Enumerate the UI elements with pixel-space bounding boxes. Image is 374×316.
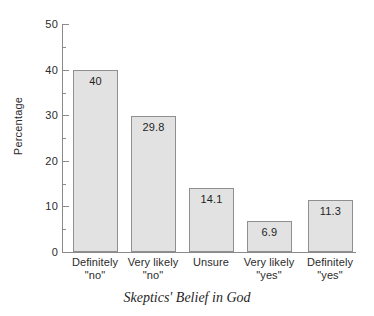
bar-value-label: 29.8 (132, 121, 175, 133)
y-tick-minor-35 (62, 93, 66, 94)
y-tick-minor-5 (62, 229, 66, 230)
bar-very-likely-no[interactable]: 29.8 (131, 116, 176, 252)
y-tick-major-0 (62, 252, 69, 253)
bar-definitely-no[interactable]: 40 (73, 70, 118, 252)
x-label-line1: Definitely (307, 256, 353, 268)
x-axis-line (62, 252, 356, 253)
chart-caption: Skeptics' Belief in God (0, 290, 374, 306)
y-tick-minor-25 (62, 138, 66, 139)
y-tick-label-10: 10 (18, 200, 58, 212)
y-tick-minor-45 (62, 47, 66, 48)
bar-value-label: 40 (74, 75, 117, 87)
bar-value-label: 14.1 (190, 193, 233, 205)
x-label-line2: "no" (110, 269, 196, 282)
y-tick-major-20 (62, 161, 69, 162)
y-tick-minor-15 (62, 184, 66, 185)
bar-unsure[interactable]: 14.1 (189, 188, 234, 252)
bar-value-label: 11.3 (309, 205, 352, 217)
bar-very-likely-yes[interactable]: 6.9 (247, 221, 292, 252)
bar-chart-plot-area: Percentage 0 10 20 30 40 50 40 29.8 14.1 (0, 0, 374, 316)
x-label-definitely-yes: Definitely "yes" (287, 256, 373, 282)
y-tick-label-20: 20 (18, 155, 58, 167)
bar-value-label: 6.9 (248, 226, 291, 238)
y-tick-major-40 (62, 70, 69, 71)
y-tick-label-30: 30 (18, 109, 58, 121)
y-tick-major-30 (62, 115, 69, 116)
y-tick-label-40: 40 (18, 64, 58, 76)
x-label-line1: Unsure (193, 256, 229, 268)
x-label-line2: "yes" (287, 269, 373, 282)
y-tick-label-50: 50 (18, 18, 58, 30)
y-tick-major-50 (62, 24, 69, 25)
bar-definitely-yes[interactable]: 11.3 (308, 200, 353, 252)
chart-page: Percentage 0 10 20 30 40 50 40 29.8 14.1 (0, 0, 374, 316)
y-tick-major-10 (62, 206, 69, 207)
